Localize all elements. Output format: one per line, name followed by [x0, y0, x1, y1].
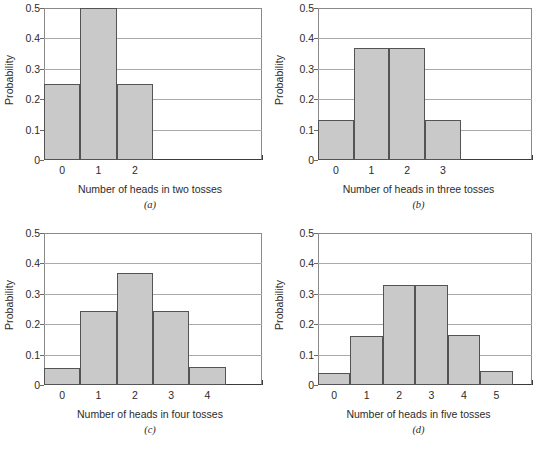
bar	[354, 48, 390, 160]
plot-area-c: 00.10.20.30.40.5 01234	[44, 233, 262, 385]
bar	[44, 84, 80, 160]
y-tick-label: 0.5	[25, 2, 40, 14]
bar-slot	[383, 233, 415, 385]
figure-binomial-histograms: Probability 00.10.20.30.40.5 012 Number …	[0, 0, 541, 449]
x-tick-label: 2	[117, 385, 153, 401]
bar	[448, 335, 480, 385]
bar-slot	[153, 233, 189, 385]
x-tick-label: 3	[153, 385, 189, 401]
plot-area-a: 00.10.20.30.40.5 012	[44, 8, 262, 160]
y-tick-label: 0.5	[299, 2, 314, 14]
x-tick-label	[461, 160, 497, 176]
bar	[80, 8, 116, 160]
bar-slot	[350, 233, 382, 385]
bar-slot	[354, 8, 390, 160]
x-tick-label: 1	[80, 385, 116, 401]
bar-slot	[318, 8, 354, 160]
bar-slot	[480, 233, 512, 385]
bar-slot	[415, 233, 447, 385]
y-tick-label: 0.1	[299, 349, 314, 361]
bars-a	[44, 8, 262, 160]
y-tick-label: 0.5	[299, 227, 314, 239]
bar	[117, 84, 153, 160]
bars-d	[318, 233, 532, 385]
x-tick-label: 1	[354, 160, 390, 176]
y-tick-label: 0.3	[25, 63, 40, 75]
y-tick-label: 0.4	[25, 32, 40, 44]
bar-slot	[189, 233, 225, 385]
plot-area-b: 00.10.20.30.40.5 0123	[318, 8, 532, 160]
y-tick-label: 0.1	[299, 124, 314, 136]
bar-slot	[117, 8, 153, 160]
y-axis-title-a: Probability	[2, 0, 16, 160]
bar	[44, 368, 80, 385]
panel-caption-d: (d)	[270, 424, 541, 435]
bars-c	[44, 233, 262, 385]
y-axis-title-c: Probability	[2, 225, 16, 385]
bar	[80, 311, 116, 385]
y-tick-label: 0.4	[25, 257, 40, 269]
x-tick-label	[513, 385, 532, 401]
bar-slot	[80, 233, 116, 385]
bar	[425, 120, 461, 160]
x-tick-label	[153, 160, 189, 176]
x-axis-title-c: Number of heads in four tosses	[0, 408, 270, 420]
plot-area-d: 00.10.20.30.40.5 012345	[318, 233, 532, 385]
panel-a: Probability 00.10.20.30.40.5 012 Number …	[0, 0, 270, 225]
bars-b	[318, 8, 532, 160]
bar-slot	[226, 8, 262, 160]
x-tick-label: 2	[383, 385, 415, 401]
bar-slot	[189, 8, 225, 160]
bar-slot	[117, 233, 153, 385]
y-tick-label: 0.1	[25, 349, 40, 361]
panel-caption-c: (c)	[0, 424, 270, 435]
x-tick-label: 2	[117, 160, 153, 176]
x-tick-label	[226, 160, 262, 176]
y-tick-label: 0.3	[299, 288, 314, 300]
bar-slot	[448, 233, 480, 385]
x-tick-label: 0	[44, 160, 80, 176]
bar	[389, 48, 425, 160]
bar-slot	[389, 8, 425, 160]
bar-slot	[44, 8, 80, 160]
y-tick-label: 0	[308, 379, 314, 391]
x-tick-labels-a: 012	[44, 160, 262, 176]
bar-slot	[226, 233, 262, 385]
x-tick-label: 0	[318, 385, 350, 401]
x-tick-label: 5	[480, 385, 512, 401]
x-tick-label	[226, 385, 262, 401]
bar	[117, 273, 153, 385]
y-tick-label: 0	[34, 154, 40, 166]
x-tick-label: 1	[350, 385, 382, 401]
x-tick-label: 0	[44, 385, 80, 401]
panel-caption-a: (a)	[0, 199, 270, 210]
y-axis-title-b: Probability	[272, 0, 286, 160]
y-tick-label: 0.4	[299, 32, 314, 44]
bar-slot	[44, 233, 80, 385]
x-axis-title-d: Number of heads in five tosses	[270, 408, 541, 420]
x-tick-label	[189, 160, 225, 176]
y-tick-label: 0.2	[25, 93, 40, 105]
bar-slot	[80, 8, 116, 160]
x-tick-label: 3	[425, 160, 461, 176]
bar	[189, 367, 225, 385]
bar-slot	[461, 8, 497, 160]
y-tick-label: 0.1	[25, 124, 40, 136]
y-tick-label: 0.5	[25, 227, 40, 239]
y-tick-label: 0.2	[299, 93, 314, 105]
axis-end-tick-c	[262, 380, 263, 385]
y-tick-label: 0.4	[299, 257, 314, 269]
x-tick-labels-c: 01234	[44, 385, 262, 401]
x-axis-title-a: Number of heads in two tosses	[0, 183, 270, 195]
x-tick-labels-b: 0123	[318, 160, 532, 176]
panel-b: Probability 00.10.20.30.40.5 0123 Number…	[270, 0, 541, 225]
bar	[318, 120, 354, 160]
x-axis-title-b: Number of heads in three tosses	[270, 183, 541, 195]
x-tick-label: 2	[389, 160, 425, 176]
bar-slot	[496, 8, 532, 160]
x-tick-label: 4	[448, 385, 480, 401]
bar	[350, 336, 382, 385]
bar-slot	[153, 8, 189, 160]
bar	[318, 373, 350, 385]
y-axis-title-d: Probability	[272, 225, 286, 385]
